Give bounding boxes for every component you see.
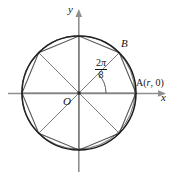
point-a-label-suffix: , 0) <box>150 77 163 88</box>
radius-315deg <box>79 93 119 133</box>
pi-symbol: π <box>101 57 106 68</box>
axes-group <box>8 9 166 172</box>
radius-135deg <box>39 53 79 93</box>
radius-225deg <box>39 93 79 133</box>
y-axis-label: y <box>68 4 73 15</box>
point-a-label: A(r, 0) <box>136 78 164 88</box>
origin-point <box>77 91 80 94</box>
angle-numerator: 2π <box>95 58 107 70</box>
figure-canvas <box>0 0 177 184</box>
origin-label: O <box>63 96 71 107</box>
angle-denominator: 8 <box>95 70 107 81</box>
angle-fraction: 2π8 <box>95 58 107 80</box>
y-axis-arrowhead <box>76 9 83 17</box>
x-axis-label: x <box>161 92 166 103</box>
point-b-label: B <box>121 38 128 49</box>
geometry-figure: y x O B A(r, 0) 2π8 <box>0 0 177 184</box>
central-angle-label: 2π8 <box>95 58 107 80</box>
point-a-label-prefix: A( <box>136 77 147 88</box>
